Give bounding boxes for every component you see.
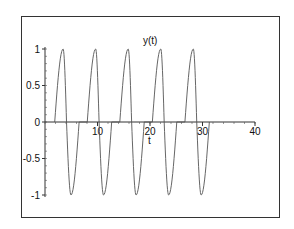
x-tick-label: 40 [249, 126, 261, 137]
line-chart: -1-0.500.5110203040 y(t) t [0, 0, 294, 229]
axes: -1-0.500.5110203040 [23, 44, 261, 201]
y-tick-label: -0.5 [23, 153, 41, 164]
x-tick-label: 30 [197, 126, 209, 137]
y-tick-label: 0 [34, 117, 40, 128]
x-axis-label: t [148, 135, 151, 146]
y-tick-label: -1 [31, 190, 40, 201]
x-tick-label: 10 [92, 126, 104, 137]
y-tick-label: 1 [34, 44, 40, 55]
y-axis-label: y(t) [143, 35, 157, 46]
y-tick-label: 0.5 [26, 80, 40, 91]
